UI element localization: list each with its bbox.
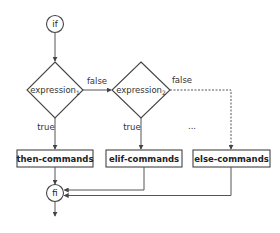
if-elif-else-flowchart: if expression1 false expression2 false t…: [0, 0, 280, 233]
true-label-1: true: [37, 122, 54, 132]
decision-expression1: expression1: [27, 62, 83, 118]
true-label-2: true: [123, 122, 140, 132]
end-label: fi: [52, 188, 57, 198]
decision-expression2: expression2: [112, 62, 170, 118]
else-commands-box: else-commands: [193, 150, 270, 167]
elif-commands-box: elif-commands: [106, 150, 182, 167]
end-node-fi: fi: [47, 185, 64, 202]
else-commands-label: else-commands: [194, 154, 269, 164]
then-commands-box: then-commands: [17, 150, 94, 167]
edge-else-to-fi: [65, 167, 232, 196]
false-label-1: false: [87, 76, 107, 86]
then-commands-label: then-commands: [17, 154, 94, 164]
start-node-if: if: [47, 16, 64, 33]
ellipsis: ...: [188, 121, 196, 131]
expression2-label: expression2: [116, 85, 166, 96]
false-label-2: false: [172, 75, 192, 85]
expression1-label: expression1: [30, 85, 80, 96]
edge-expression2-false: [170, 90, 231, 149]
edge-elif-to-fi: [65, 167, 145, 190]
elif-commands-label: elif-commands: [109, 154, 179, 164]
